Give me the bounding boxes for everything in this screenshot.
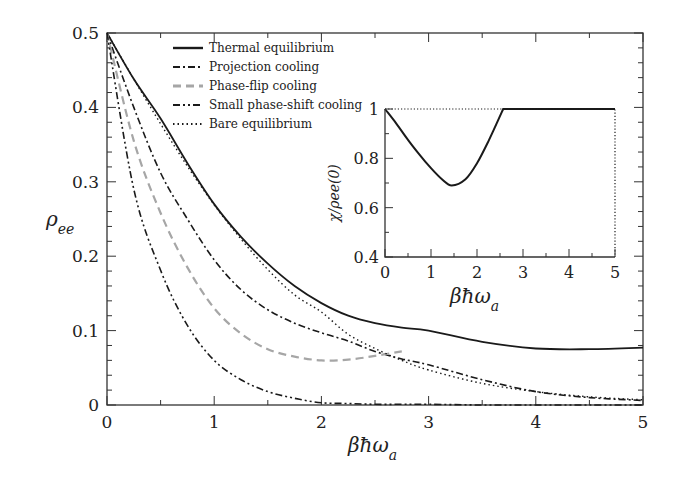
inset-y-tick-label: 1 [369, 100, 379, 119]
y-tick-label: 0.1 [72, 321, 99, 341]
inset-y-axis-label: χ/ρee(0) [326, 164, 342, 223]
inset-x-tick-label: 2 [472, 263, 482, 282]
x-tick-label: 1 [209, 412, 220, 432]
inset-y-tick-label: 0.6 [354, 199, 379, 218]
legend: Thermal equilibriumProjection coolingPha… [173, 41, 363, 131]
inset-x-axis-label: βħωa [449, 284, 499, 314]
y-tick-label: 0.5 [72, 23, 99, 43]
x-tick-label: 2 [316, 412, 327, 432]
inset-x-tick-label: 1 [426, 263, 436, 282]
chart-figure: 01234500.10.20.30.40.5 βħωa ρee Thermal … [0, 0, 676, 477]
main-y-axis-label: ρee [45, 207, 74, 237]
y-tick-label: 0.4 [72, 97, 99, 117]
x-tick-label: 0 [102, 412, 113, 432]
x-tick-label: 4 [530, 412, 541, 432]
inset-y-tick-label: 0.8 [354, 149, 379, 168]
inset-x-tick-label: 3 [518, 263, 528, 282]
y-tick-label: 0.2 [72, 246, 99, 266]
legend-label: Projection cooling [209, 60, 320, 74]
legend-label: Phase-flip cooling [209, 79, 317, 93]
legend-label: Small phase-shift cooling [209, 98, 363, 112]
inset-y-tick-label: 0.4 [354, 248, 379, 267]
y-tick-label: 0.3 [72, 172, 99, 192]
legend-label: Thermal equilibrium [209, 41, 335, 55]
inset-background [385, 109, 615, 257]
y-tick-label: 0 [88, 395, 99, 415]
x-tick-label: 3 [423, 412, 434, 432]
inset-x-tick-label: 4 [564, 263, 574, 282]
x-tick-label: 5 [638, 412, 649, 432]
inset-x-tick-label: 0 [380, 263, 390, 282]
legend-label: Bare equilibrium [209, 117, 313, 131]
inset-x-tick-label: 5 [610, 263, 620, 282]
main-x-axis-label: βħωa [347, 433, 397, 463]
